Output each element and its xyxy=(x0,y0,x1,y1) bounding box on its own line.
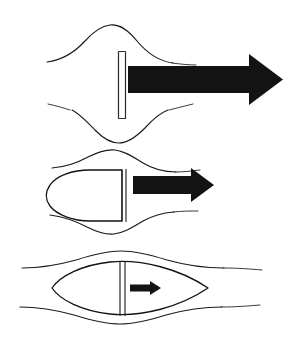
figure-root: Effect of body shape on drag Flat plate … xyxy=(0,0,296,350)
half-body-shape xyxy=(46,170,122,221)
drag-comparison-figure xyxy=(0,0,296,350)
flat-plate-body xyxy=(119,52,126,119)
